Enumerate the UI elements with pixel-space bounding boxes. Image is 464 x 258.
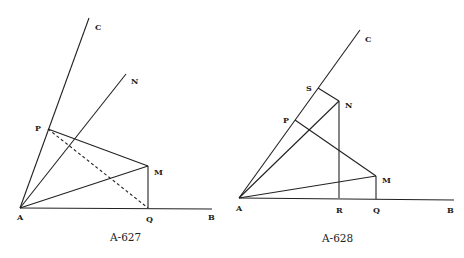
label-r: R bbox=[336, 205, 343, 215]
figure-a-627: C N P M A Q B A-627 bbox=[16, 18, 215, 243]
line-an bbox=[20, 74, 126, 208]
label-b: B bbox=[208, 212, 215, 222]
label-q: Q bbox=[373, 205, 380, 215]
label-a: A bbox=[235, 203, 243, 213]
line-sn bbox=[318, 88, 339, 101]
label-c: C bbox=[95, 22, 101, 32]
label-c: C bbox=[365, 34, 371, 44]
label-p: P bbox=[35, 123, 41, 133]
label-a: A bbox=[16, 212, 24, 222]
label-n: N bbox=[131, 76, 138, 86]
label-m: M bbox=[154, 167, 163, 177]
line-pm bbox=[295, 120, 376, 176]
line-am bbox=[239, 176, 376, 198]
label-s: S bbox=[306, 83, 312, 93]
label-q: Q bbox=[146, 214, 153, 224]
line-ac bbox=[239, 30, 360, 198]
line-am bbox=[20, 166, 148, 208]
label-m: M bbox=[382, 175, 391, 185]
label-p: P bbox=[283, 115, 289, 125]
line-ab bbox=[239, 198, 454, 200]
geometry-figures: C N P M A Q B A-627 C S N P M A R Q B A-… bbox=[0, 0, 464, 258]
label-b: B bbox=[447, 205, 454, 215]
caption-a-628: A-628 bbox=[321, 232, 353, 244]
line-pq-dashed bbox=[48, 129, 148, 208]
label-n: N bbox=[345, 100, 352, 110]
line-ac bbox=[20, 18, 89, 208]
caption-a-627: A-627 bbox=[109, 231, 141, 243]
line-ab bbox=[20, 208, 212, 209]
line-pm bbox=[48, 129, 148, 166]
figure-a-628: C S N P M A R Q B A-628 bbox=[235, 30, 454, 244]
